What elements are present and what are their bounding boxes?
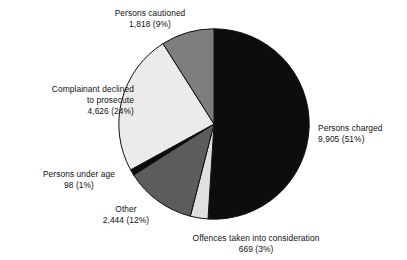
slice-label-line: Complainant declined bbox=[6, 84, 134, 95]
slice-value-line: 1,818 (9%) bbox=[84, 19, 216, 30]
slice-label-persons-under-age: Persons under age 98 (1%) bbox=[20, 169, 138, 191]
slice-label-offences-taken-into-consideration: Offences taken into consideration 669 (3… bbox=[172, 233, 340, 255]
slice-value-line: 669 (3%) bbox=[172, 244, 340, 255]
pie-chart-figure: Persons cautioned 1,818 (9%) Complainant… bbox=[0, 0, 407, 260]
slice-label-other: Other 2,444 (12%) bbox=[78, 204, 174, 226]
slice-label-line: Offences taken into consideration bbox=[172, 233, 340, 244]
slice-value-line: 4,626 (24%) bbox=[6, 106, 134, 117]
slice-value-line: 9,905 (51%) bbox=[318, 134, 406, 145]
pie-svg bbox=[118, 28, 310, 220]
slice-label-line: to prosecute bbox=[6, 95, 134, 106]
slice-label-line: Persons under age bbox=[20, 169, 138, 180]
slice-label-persons-cautioned: Persons cautioned 1,818 (9%) bbox=[84, 8, 216, 30]
slice-label-line: Persons cautioned bbox=[84, 8, 216, 19]
slice-label-line: Persons charged bbox=[318, 123, 406, 134]
slice-value-line: 98 (1%) bbox=[20, 180, 138, 191]
slice-label-complainant-declined-to-prosecute: Complainant declined to prosecute 4,626 … bbox=[6, 84, 134, 118]
pie-slice-group bbox=[119, 29, 309, 219]
slice-label-persons-charged: Persons charged 9,905 (51%) bbox=[318, 123, 406, 145]
pie-chart-graphic bbox=[118, 28, 310, 220]
slice-value-line: 2,444 (12%) bbox=[78, 215, 174, 226]
pie-slice-persons-charged[interactable] bbox=[208, 29, 309, 219]
slice-label-line: Other bbox=[78, 204, 174, 215]
